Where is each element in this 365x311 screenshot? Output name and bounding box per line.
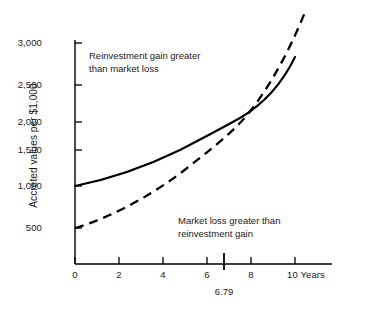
y-axis-ticks xyxy=(75,43,82,228)
y-tick-label-1500: 1,500 xyxy=(0,144,42,155)
x-axis-ticks xyxy=(75,257,295,264)
annotation-market-loss: Market loss greater than reinvestment ga… xyxy=(178,215,280,240)
series-line-solid xyxy=(75,57,295,186)
chart-plot-area xyxy=(0,0,365,311)
x-tick-label-0: 0 xyxy=(66,269,84,280)
callout-label-679: 6.79 xyxy=(206,286,242,297)
y-tick-label-1000: 1,000 xyxy=(0,180,42,191)
annotation-reinvestment-gain-line2: than market loss xyxy=(89,63,200,76)
annotation-market-loss-line2: reinvestment gain xyxy=(178,228,280,241)
y-tick-label-2000: 2,000 xyxy=(0,116,42,127)
chart-container: Accreted values per $1,000 3,000 2,500 2… xyxy=(0,0,365,311)
x-tick-label-6: 6 xyxy=(198,269,216,280)
y-tick-label-2500: 2,500 xyxy=(0,79,42,90)
y-tick-label-3000: 3,000 xyxy=(0,37,42,48)
x-tick-label-2: 2 xyxy=(110,269,128,280)
x-tick-label-8: 8 xyxy=(242,269,260,280)
x-tick-label-10-years: 10 Years xyxy=(278,269,334,280)
y-tick-label-500: 500 xyxy=(0,222,42,233)
annotation-reinvestment-gain-line1: Reinvestment gain greater xyxy=(89,50,200,63)
x-tick-label-4: 4 xyxy=(154,269,172,280)
annotation-market-loss-line1: Market loss greater than xyxy=(178,215,280,228)
annotation-reinvestment-gain: Reinvestment gain greater than market lo… xyxy=(89,50,200,75)
series-line-dashed xyxy=(75,12,305,228)
